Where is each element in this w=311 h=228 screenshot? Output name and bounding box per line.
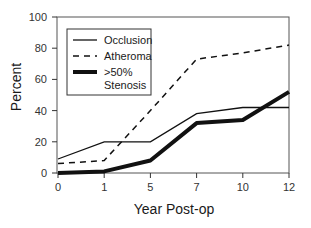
legend: Occlusion Atheroma >50% Stenosis <box>67 29 153 95</box>
line-chart: 020406080100 01571012 Occlusion Atheroma… <box>0 0 311 228</box>
y-tick-label: 40 <box>35 105 47 117</box>
y-tick-label: 80 <box>35 42 47 54</box>
legend-label-stenosis-line1: >50% <box>104 66 133 78</box>
legend-label-occlusion: Occlusion <box>104 34 152 46</box>
y-axis-title: Percent <box>8 63 24 111</box>
x-tick-label: 12 <box>283 181 295 193</box>
x-tick-label: 0 <box>55 181 61 193</box>
y-axis: 020406080100 <box>29 11 57 179</box>
x-axis: 01571012 <box>55 173 295 193</box>
legend-label-stenosis-line2: Stenosis <box>104 79 147 91</box>
legend-label-atheroma: Atheroma <box>104 50 153 62</box>
x-axis-title: Year Post-op <box>134 201 215 217</box>
x-tick-label: 5 <box>147 181 153 193</box>
y-tick-label: 20 <box>35 136 47 148</box>
x-tick-label: 10 <box>237 181 249 193</box>
y-tick-label: 100 <box>29 11 47 23</box>
y-tick-label: 0 <box>41 167 47 179</box>
x-tick-label: 7 <box>194 181 200 193</box>
y-tick-label: 60 <box>35 73 47 85</box>
x-tick-label: 1 <box>101 181 107 193</box>
